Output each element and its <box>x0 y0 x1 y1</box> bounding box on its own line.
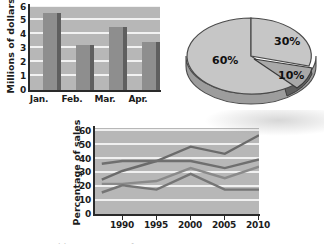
line-ytick-20: 20 <box>73 181 91 191</box>
pie-label-60: 60% <box>212 54 238 67</box>
line-chart-x-axis-line <box>93 214 260 216</box>
bar-ytick-2: 2 <box>14 57 26 67</box>
line-xtick-1990: 1990 <box>109 220 135 230</box>
bar-mar <box>109 27 127 90</box>
bar-jan <box>43 13 61 90</box>
pie-chart-graphic <box>181 4 321 112</box>
bar-ytick-1: 1 <box>14 71 26 81</box>
bar-apr <box>142 42 160 90</box>
line-xtick-2005: 2005 <box>211 220 237 230</box>
bar-xtick-apr: Apr. <box>121 94 155 104</box>
line-chart-plot-area <box>95 128 259 214</box>
line-ytick-50: 50 <box>73 140 91 150</box>
bar-xtick-jan: Jan. <box>22 94 56 104</box>
line-ytick-0: 0 <box>73 209 91 219</box>
bar-ytick-6: 6 <box>14 2 26 12</box>
line-ytick-40: 40 <box>73 154 91 164</box>
line-ytick-60: 60 <box>73 126 91 136</box>
line-xtick-2000: 2000 <box>177 220 203 230</box>
line-xtick-2010: 2010 <box>245 220 271 230</box>
bar-xtick-mar: Mar. <box>88 94 122 104</box>
line-series-2 <box>102 160 259 169</box>
cropped-caption-strip: cropped line of body text <box>44 243 286 251</box>
bar-chart-x-axis-line <box>28 90 161 92</box>
bar-feb <box>76 45 94 90</box>
line-ytick-30: 30 <box>73 167 91 177</box>
line-ytick-10: 10 <box>73 195 91 205</box>
bar-ytick-4: 4 <box>14 29 26 39</box>
line-chart-y-axis-line <box>93 126 95 216</box>
line-chart-series-graphic <box>95 128 259 214</box>
figure-sheet: Millions of dollars 0 1 2 3 4 5 6 Jan. F… <box>0 0 324 251</box>
line-chart: Percentage of sales <box>57 122 302 244</box>
pie-chart: 60% 30% 10% <box>181 4 321 112</box>
bar-chart: Millions of dollars 0 1 2 3 4 5 6 Jan. F… <box>0 2 166 112</box>
bar-ytick-3: 3 <box>14 43 26 53</box>
line-xtick-1995: 1995 <box>143 220 169 230</box>
bar-chart-plot-area <box>30 6 160 90</box>
cropped-caption-text: cropped line of body text <box>44 243 157 244</box>
bar-xtick-feb: Feb. <box>55 94 89 104</box>
bar-chart-y-axis-line <box>28 4 30 92</box>
bar-ytick-5: 5 <box>14 15 26 25</box>
pie-label-30: 30% <box>274 35 300 48</box>
pie-label-10: 10% <box>278 69 304 82</box>
bar-gridline-6 <box>30 6 160 7</box>
